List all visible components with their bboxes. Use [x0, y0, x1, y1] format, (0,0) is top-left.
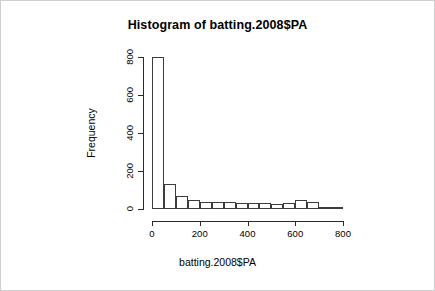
x-tick-mark: [343, 221, 344, 226]
x-axis-title: batting.2008$PA: [0, 256, 435, 268]
y-tick-label: 600: [125, 87, 135, 103]
y-tick-label: 200: [125, 163, 135, 179]
x-tick-mark: [200, 221, 201, 226]
histogram-bar: [188, 200, 200, 210]
histogram-bar: [236, 203, 248, 209]
histogram-bar: [176, 196, 188, 209]
histogram-screenshot: Histogram of batting.2008$PA 02004006008…: [0, 0, 435, 291]
histogram-bar: [295, 200, 307, 210]
x-tick-label: 200: [192, 228, 208, 239]
y-axis-title: Frequency: [85, 108, 97, 158]
histogram-bar: [200, 202, 212, 209]
x-tick-label: 0: [149, 228, 154, 239]
y-tick-label: 400: [125, 125, 135, 141]
histogram-bar: [152, 57, 164, 209]
y-tick-mark: [138, 57, 143, 58]
histogram-bar: [271, 204, 283, 209]
histogram-bar: [331, 207, 343, 209]
histogram-bar: [259, 203, 271, 209]
histogram-bar: [307, 202, 319, 209]
histogram-bar: [283, 203, 295, 209]
x-tick-mark: [248, 221, 249, 226]
plot-area: [152, 57, 343, 209]
histogram-bar: [319, 207, 331, 209]
y-tick-mark: [138, 95, 143, 96]
y-tick-label: 800: [125, 49, 135, 65]
y-tick-mark: [138, 171, 143, 172]
y-tick-label: 0: [125, 206, 135, 211]
x-tick-label: 400: [240, 228, 256, 239]
x-tick-mark: [295, 221, 296, 226]
histogram-bar: [248, 203, 260, 209]
y-tick-mark: [138, 209, 143, 210]
histogram-bar: [224, 202, 236, 209]
y-axis-line: [143, 57, 144, 210]
chart-title: Histogram of batting.2008$PA: [0, 18, 435, 32]
y-tick-mark: [138, 133, 143, 134]
x-tick-mark: [152, 221, 153, 226]
x-tick-label: 800: [335, 228, 351, 239]
histogram-bar: [164, 184, 176, 209]
x-tick-label: 600: [287, 228, 303, 239]
histogram-bar: [212, 202, 224, 209]
